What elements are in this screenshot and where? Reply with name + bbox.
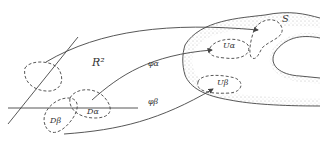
label-u-beta: Uβ bbox=[217, 79, 228, 87]
domain-unlabeled bbox=[25, 62, 62, 91]
surface-s bbox=[183, 13, 320, 106]
label-plane: R² bbox=[92, 57, 105, 68]
label-phi-alpha: φα bbox=[148, 60, 159, 68]
label-phi-beta: φβ bbox=[148, 98, 158, 106]
label-surface: S bbox=[282, 14, 289, 24]
label-u-alpha: Uα bbox=[223, 42, 235, 50]
manifold-chart-diagram bbox=[0, 0, 320, 148]
line-diagonal bbox=[8, 37, 78, 124]
label-d-beta: Dβ bbox=[50, 117, 61, 125]
label-d-alpha: Dα bbox=[87, 108, 99, 116]
